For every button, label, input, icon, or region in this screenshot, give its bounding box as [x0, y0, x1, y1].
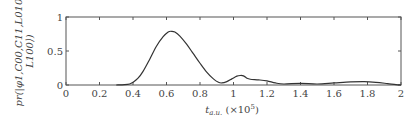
y-axis-label-line2: L100⟩) [24, 34, 35, 69]
x-tick-label: 1.2 [259, 88, 275, 99]
y-tick-label: 1 [57, 12, 63, 23]
x-tick-label: 0 [63, 88, 69, 99]
x-tick-label: 1.6 [326, 88, 342, 99]
y-tick-label: 0.5 [47, 46, 63, 57]
x-tick-labels: 00.20.40.60.811.21.41.61.82 [63, 88, 404, 99]
y-tick-labels: 00.51 [47, 12, 63, 91]
x-tick-label: 2 [398, 88, 404, 99]
x-tick-label: 1.8 [360, 88, 376, 99]
x-tick-label: 0.2 [92, 88, 108, 99]
axis-ticks [66, 17, 401, 85]
x-axis-label: ta.u. (×105) [205, 103, 259, 117]
data-line [116, 31, 401, 85]
plot-frame [66, 17, 401, 85]
y-axis-label: pr(|φ1,C00,C11,L010, L100⟩) [13, 0, 35, 107]
line-chart: 00.51 00.20.40.60.811.21.41.61.82 pr(|φ1… [0, 0, 419, 122]
x-tick-label: 0.4 [125, 88, 141, 99]
x-tick-label: 0.8 [192, 88, 208, 99]
x-tick-label: 0.6 [159, 88, 175, 99]
x-tick-label: 1 [230, 88, 236, 99]
x-tick-label: 1.4 [293, 88, 309, 99]
